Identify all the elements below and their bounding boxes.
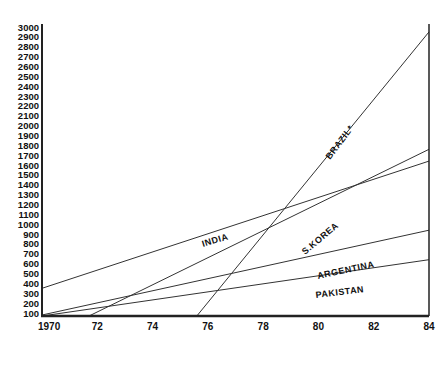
y-tick-label: 2500 [18,71,39,82]
y-tick-label: 1600 [18,160,39,171]
y-tick-label: 800 [23,238,39,249]
y-tick-label: 500 [23,268,39,279]
y-tick-label: 1000 [18,219,39,230]
x-tick-label: 72 [92,321,104,332]
x-axis-ticks: 197072747678808284 [38,321,435,332]
y-tick-label: 1400 [18,179,39,190]
y-tick-label: 700 [23,248,39,259]
y-tick-label: 1300 [18,189,39,200]
series-label-india: INDIA [201,231,230,248]
line-chart: 1002003004005006007008009001000110012001… [0,0,447,376]
y-tick-label: 2300 [18,91,39,102]
y-tick-label: 2600 [18,61,39,72]
y-tick-label: 200 [23,298,39,309]
y-tick-label: 2000 [18,120,39,131]
y-tick-label: 2200 [18,100,39,111]
x-tick-label: 84 [423,321,435,332]
series-label-argentina: ARGENTINA [316,259,375,281]
y-tick-label: 600 [23,258,39,269]
y-tick-label: 3000 [18,22,39,33]
y-tick-label: 2400 [18,81,39,92]
y-axis-ticks: 1002003004005006007008009001000110012001… [18,22,39,319]
series-line-skorea [89,149,429,316]
x-tick-label: 76 [202,321,214,332]
y-tick-label: 2100 [18,110,39,121]
y-tick-label: 900 [23,229,39,240]
x-tick-label: 78 [258,321,270,332]
y-tick-label: 1700 [18,150,39,161]
series-label-brazil: BRAZIL* [324,123,356,161]
x-tick-label: 80 [313,321,325,332]
y-tick-label: 1500 [18,169,39,180]
y-tick-label: 300 [23,288,39,299]
series-line-argentina [42,230,429,315]
y-tick-label: 1800 [18,140,39,151]
y-tick-label: 1900 [18,130,39,141]
y-tick-label: 400 [23,278,39,289]
x-tick-label: 82 [368,321,380,332]
y-tick-label: 1200 [18,199,39,210]
x-tick-label: 1970 [38,321,61,332]
y-tick-label: 2900 [18,31,39,42]
x-tick-label: 74 [147,321,159,332]
y-tick-label: 2800 [18,41,39,52]
series-lines [42,32,429,316]
y-tick-label: 1100 [18,209,39,220]
y-tick-label: 100 [23,308,39,319]
y-tick-label: 2700 [18,51,39,62]
series-label-pakistan: PAKISTAN [315,284,365,300]
